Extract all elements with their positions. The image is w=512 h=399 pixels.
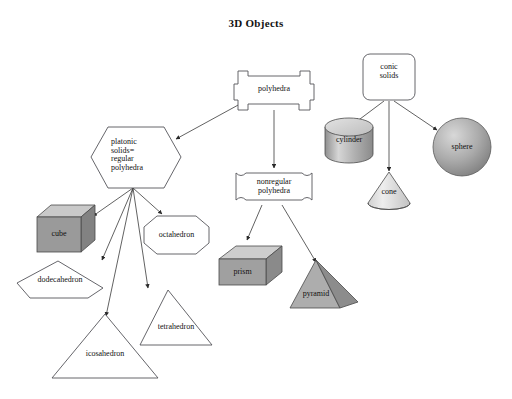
node-icosahedron[interactable] xyxy=(52,314,158,378)
node-sphere[interactable] xyxy=(433,118,491,176)
node-polyhedra[interactable] xyxy=(234,71,314,110)
node-platonic[interactable] xyxy=(91,127,181,188)
edge-polyhedra-platonic xyxy=(176,104,240,139)
edge-nonregular-prism xyxy=(247,205,262,240)
node-nonregular[interactable] xyxy=(236,173,312,200)
node-cylinder[interactable] xyxy=(325,118,373,163)
node-conic[interactable] xyxy=(363,54,415,100)
node-pyramid[interactable] xyxy=(290,260,358,308)
diagram-canvas xyxy=(0,0,512,399)
node-cube[interactable] xyxy=(37,205,95,252)
edge-conic-sphere xyxy=(394,101,437,130)
node-cone[interactable] xyxy=(368,172,410,210)
edge-platonic-icosahedron xyxy=(106,188,133,316)
node-octahedron[interactable] xyxy=(144,216,209,254)
node-dodecahedron[interactable] xyxy=(17,261,103,298)
edge-nonregular-pyramid xyxy=(282,205,316,262)
node-tetrahedron[interactable] xyxy=(140,290,212,345)
node-prism[interactable] xyxy=(219,246,282,285)
edge-platonic-octahedron xyxy=(133,188,162,214)
